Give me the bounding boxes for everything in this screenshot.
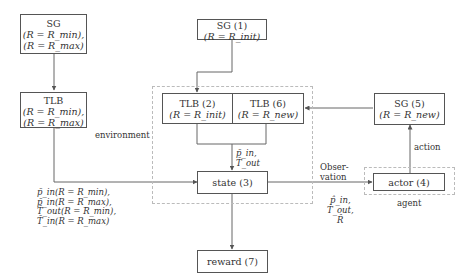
node-title: TLB (6) bbox=[233, 98, 303, 109]
tlb2-node: TLB (2) (R = R_init) bbox=[162, 93, 233, 124]
node-title: TLB (2) bbox=[163, 98, 232, 109]
action-label: action bbox=[414, 142, 441, 152]
node-param: (R = R_max) bbox=[21, 117, 86, 128]
edge-sg1-to-tlb2 bbox=[197, 39, 232, 92]
node-title: SG bbox=[21, 18, 86, 29]
node-param: (R = R_new) bbox=[233, 109, 303, 120]
node-title: actor (4) bbox=[374, 177, 444, 188]
observation-vars-label: p̂_in, T̂_out, R̂ bbox=[327, 195, 354, 225]
node-title: state (3) bbox=[198, 177, 267, 188]
node-param: (R = R_min), bbox=[21, 29, 86, 40]
observation-label: Obser- vation bbox=[320, 162, 349, 182]
environment-label: environment bbox=[95, 130, 150, 140]
agent-label: agent bbox=[397, 198, 421, 208]
state3-node: state (3) bbox=[197, 171, 268, 194]
node-title: reward (7) bbox=[198, 256, 267, 267]
reward7-node: reward (7) bbox=[197, 250, 268, 273]
actor4-node: actor (4) bbox=[373, 173, 445, 191]
node-param: (R = R_max) bbox=[21, 40, 86, 51]
tlb6-node: TLB (6) (R = R_new) bbox=[232, 93, 304, 124]
node-title: TLB bbox=[21, 95, 86, 106]
node-param: (R = R_init) bbox=[198, 31, 266, 42]
node-param: (R = R_init) bbox=[163, 109, 232, 120]
tlb-to-state-label: p̄_in, T̄_out bbox=[236, 148, 260, 168]
tlb-left-node: TLB (R = R_min), (R = R_max) bbox=[20, 92, 87, 128]
node-param: (R = R_new) bbox=[375, 109, 444, 120]
sg1-node: SG (1) (R = R_init) bbox=[197, 19, 267, 40]
node-title: SG (5) bbox=[375, 98, 444, 109]
node-param: (R = R_min), bbox=[21, 106, 86, 117]
sg-left-node: SG (R = R_min), (R = R_max) bbox=[20, 14, 87, 54]
node-title: SG (1) bbox=[198, 20, 266, 31]
sg5-node: SG (5) (R = R_new) bbox=[374, 93, 445, 125]
left-inputs-label: p̄_in(R = R_min), p̄_in(R = R_max), T̄_o… bbox=[37, 188, 116, 226]
